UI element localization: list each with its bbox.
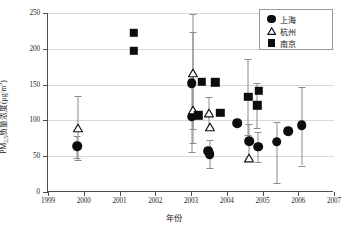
data-point-nanjing <box>244 93 252 101</box>
error-bar-cap <box>188 152 195 153</box>
filled-circle-icon <box>265 15 278 23</box>
y-axis-title: PM2.5质量浓度(μg/m3) <box>0 47 9 187</box>
data-point-nanjing <box>253 101 261 109</box>
x-tick <box>191 192 192 196</box>
y-tick-label: 100 <box>30 116 40 124</box>
legend-item-2: 南京 <box>265 37 328 49</box>
y-tick-label: 150 <box>30 81 40 89</box>
error-bar-cap <box>298 166 305 167</box>
error-bar-cap <box>273 183 280 184</box>
y-tick-label: 200 <box>30 45 40 53</box>
data-point-shanghai <box>187 78 197 88</box>
error-bar-cap <box>75 160 82 161</box>
data-point-nanjing <box>130 47 138 55</box>
data-point-shanghai <box>244 136 254 146</box>
data-point-shanghai <box>253 142 263 152</box>
data-point-hangzhou <box>188 68 199 77</box>
y-axis-title-pre: PM <box>0 142 8 153</box>
error-bar-cap <box>254 83 261 84</box>
legend-label: 杭州 <box>280 26 296 37</box>
data-point-shanghai <box>283 126 293 136</box>
x-tick <box>120 192 121 196</box>
data-point-hangzhou <box>244 154 255 163</box>
x-tick-label: 2000 <box>77 197 91 205</box>
error-bar-cap <box>189 32 196 33</box>
error-bar-cap <box>205 97 212 98</box>
data-point-nanjing <box>211 78 219 86</box>
error-bar-cap <box>273 122 280 123</box>
y-tick <box>43 13 48 14</box>
data-point-shanghai <box>233 118 243 128</box>
data-point-shanghai <box>73 141 83 151</box>
data-point-nanjing <box>194 111 202 119</box>
data-point-nanjing <box>130 29 138 37</box>
data-point-shanghai <box>205 149 215 159</box>
x-tick <box>48 192 49 196</box>
x-tick <box>298 192 299 196</box>
legend-item-0: 上海 <box>265 13 328 25</box>
error-bar-cap <box>206 168 213 169</box>
data-point-nanjing <box>216 108 224 116</box>
y-axis-title-post: ) <box>0 80 8 83</box>
x-tick <box>263 192 264 196</box>
y-tick-label: 250 <box>30 9 40 17</box>
data-point-nanjing <box>198 78 206 86</box>
error-bar-cap <box>189 143 196 144</box>
x-tick-label: 2007 <box>327 197 341 205</box>
chart-legend: 上海杭州南京 <box>259 9 333 50</box>
y-tick <box>43 120 48 121</box>
error-bar-cap <box>255 162 262 163</box>
error-bar-cap <box>206 140 213 141</box>
error-bar-cap <box>298 87 305 88</box>
pm25-scatter-chart: PM2.5质量浓度(μg/m3) 年份 19992000200120022003… <box>0 0 348 233</box>
y-tick-label: 0 <box>37 188 41 196</box>
gridline <box>48 156 334 157</box>
y-tick <box>43 85 48 86</box>
data-point-nanjing <box>255 87 263 95</box>
x-tick-label: 2006 <box>291 197 305 205</box>
error-bar-cap <box>245 124 252 125</box>
open-triangle-icon <box>265 27 278 35</box>
data-point-shanghai <box>272 137 282 147</box>
y-axis-title-sub: 2.5 <box>3 135 9 142</box>
error-bar-cap <box>254 128 261 129</box>
y-tick <box>43 49 48 50</box>
legend-label: 上海 <box>280 14 296 25</box>
x-tick-label: 1999 <box>41 197 55 205</box>
error-bar-cap <box>75 96 82 97</box>
x-tick-label: 2001 <box>113 197 127 205</box>
error-bar <box>276 122 277 184</box>
x-tick-label: 2003 <box>184 197 198 205</box>
error-bar-cap <box>255 132 262 133</box>
x-tick <box>227 192 228 196</box>
legend-item-1: 杭州 <box>265 25 328 37</box>
x-tick-label: 2005 <box>256 197 270 205</box>
data-point-hangzhou <box>204 122 215 131</box>
x-tick <box>334 192 335 196</box>
data-point-shanghai <box>297 121 307 131</box>
y-axis-title-mid: 质量浓度(μg/m <box>0 85 8 135</box>
x-axis-title: 年份 <box>0 211 348 223</box>
legend-label: 南京 <box>280 38 296 49</box>
error-bar-cap <box>189 14 196 15</box>
x-tick <box>84 192 85 196</box>
data-point-hangzhou <box>73 123 84 132</box>
y-tick-label: 50 <box>33 152 40 160</box>
data-point-hangzhou <box>204 109 215 118</box>
x-tick-label: 2004 <box>220 197 234 205</box>
x-tick-label: 2002 <box>148 197 162 205</box>
y-tick <box>43 156 48 157</box>
error-bar-cap <box>245 59 252 60</box>
filled-square-icon <box>265 39 278 47</box>
x-tick <box>155 192 156 196</box>
